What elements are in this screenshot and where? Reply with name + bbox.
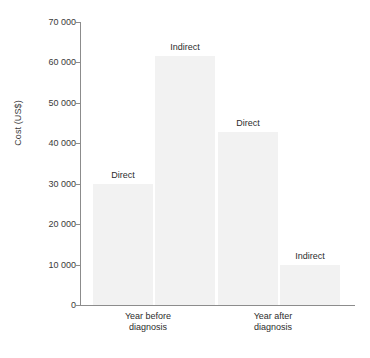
bar-label-indirect-year-before: Indirect — [155, 42, 215, 52]
bar-indirect-year-before — [155, 56, 215, 305]
bar-indirect-year-after — [280, 265, 340, 305]
bar-direct-year-after — [218, 132, 278, 305]
y-axis-tick-labels: 70 000 60 000 50 000 40 000 30 000 20 00… — [20, 0, 76, 358]
y-tick-label-70000: 70 000 — [30, 18, 76, 27]
bar-label-direct-year-before: Direct — [93, 170, 153, 180]
x-axis-label-year-after-diagnosis: Year after diagnosis — [218, 311, 328, 333]
y-tick-label-60000: 60 000 — [30, 58, 76, 67]
x-axis-label-year-before-diagnosis: Year before diagnosis — [93, 311, 203, 333]
bar-label-direct-year-after: Direct — [218, 118, 278, 128]
bar-chart: Cost (US$) 70 000 60 000 50 000 40 000 3… — [0, 0, 370, 358]
y-tick-label-10000: 10 000 — [30, 261, 76, 270]
y-tick-label-30000: 30 000 — [30, 180, 76, 189]
bar-label-indirect-year-after: Indirect — [280, 251, 340, 261]
x-axis-label-line1: Year before — [93, 311, 203, 322]
x-axis-label-line1: Year after — [218, 311, 328, 322]
bar-direct-year-before — [93, 184, 153, 305]
y-tick-label-0: 0 — [30, 301, 76, 310]
y-tick-label-40000: 40 000 — [30, 139, 76, 148]
x-axis-label-line2: diagnosis — [93, 322, 203, 333]
x-axis-label-line2: diagnosis — [218, 322, 328, 333]
x-axis-line — [80, 305, 355, 306]
y-tick-label-20000: 20 000 — [30, 220, 76, 229]
y-tick-label-50000: 50 000 — [30, 99, 76, 108]
plot-area — [81, 22, 355, 305]
